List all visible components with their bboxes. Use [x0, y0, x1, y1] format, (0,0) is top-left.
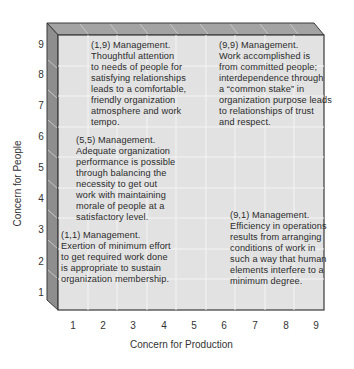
note-line: friendly organization	[91, 95, 186, 106]
y-tick-8: 8	[36, 69, 46, 80]
x-tick-5: 5	[188, 320, 200, 331]
note-line: from committed people;	[219, 62, 332, 73]
note-line: results from arranging	[230, 232, 327, 243]
note-line: performance is possible	[76, 157, 175, 168]
note-line: and respect.	[219, 117, 332, 128]
note-line: leads to a comfortable,	[91, 84, 186, 95]
style-title: (1,1) Management.	[61, 230, 171, 241]
x-tick-7: 7	[249, 320, 261, 331]
note-line: Efficiency in operations	[230, 221, 327, 232]
note-line: conditions of work in	[230, 243, 327, 254]
note-line: to relationships of trust	[219, 106, 332, 117]
x-axis-label: Concern for Production	[130, 339, 233, 350]
note-line: Work accomplished is	[219, 51, 332, 62]
note-line: such a way that human	[230, 254, 327, 265]
y-tick-7: 7	[36, 100, 46, 111]
style-5-5-note: (5,5) Management. Adequate organization …	[76, 135, 175, 223]
style-9-1-note: (9,1) Management. Efficiency in operatio…	[230, 210, 327, 287]
x-tick-9: 9	[310, 320, 322, 331]
note-line: organization membership.	[61, 274, 171, 285]
y-axis-label: Concern for People	[12, 129, 23, 239]
note-line: Thoughtful attention	[91, 51, 186, 62]
note-line: satisfying relationships	[91, 73, 186, 84]
style-title: (9,9) Management.	[219, 40, 332, 51]
note-line: elements interfere to a	[230, 265, 327, 276]
style-1-9-note: (1,9) Management. Thoughtful attention t…	[91, 40, 186, 128]
note-line: Exertion of minimum effort	[61, 241, 171, 252]
note-line: to get required work done	[61, 252, 171, 263]
style-1-1-note: (1,1) Management. Exertion of minimum ef…	[61, 230, 171, 285]
y-tick-1: 1	[36, 287, 46, 298]
x-tick-4: 4	[158, 320, 170, 331]
x-tick-1: 1	[67, 320, 79, 331]
y-tick-3: 3	[36, 224, 46, 235]
note-line: Adequate organization	[76, 146, 175, 157]
note-line: interdependence through	[219, 73, 332, 84]
note-line: minimum degree.	[230, 276, 327, 287]
note-line: through balancing the	[76, 168, 175, 179]
x-tick-3: 3	[127, 320, 139, 331]
y-tick-9: 9	[36, 39, 46, 50]
x-tick-8: 8	[280, 320, 292, 331]
note-line: to needs of people for	[91, 62, 186, 73]
x-tick-6: 6	[218, 320, 230, 331]
note-line: atmosphere and work	[91, 106, 186, 117]
x-tick-2: 2	[97, 320, 109, 331]
note-line: work with maintaining	[76, 190, 175, 201]
note-line: necessity to get out	[76, 179, 175, 190]
style-title: (9,1) Management.	[230, 210, 327, 221]
note-line: tempo.	[91, 117, 186, 128]
note-line: is appropriate to sustain	[61, 263, 171, 274]
note-line: morale of people at a	[76, 201, 175, 212]
style-title: (1,9) Management.	[91, 40, 186, 51]
note-line: a “common stake” in	[219, 84, 332, 95]
managerial-grid-diagram: 9 8 7 6 5 4 3 2 1 1 2 3 4 5 6 7 8 9 Conc…	[0, 0, 354, 369]
y-tick-2: 2	[36, 256, 46, 267]
style-9-9-note: (9,9) Management. Work accomplished is f…	[219, 40, 332, 128]
y-tick-5: 5	[36, 162, 46, 173]
note-line: organization purpose leads	[219, 95, 332, 106]
y-tick-4: 4	[36, 193, 46, 204]
style-title: (5,5) Management.	[76, 135, 175, 146]
y-tick-6: 6	[36, 131, 46, 142]
note-line: satisfactory level.	[76, 212, 175, 223]
